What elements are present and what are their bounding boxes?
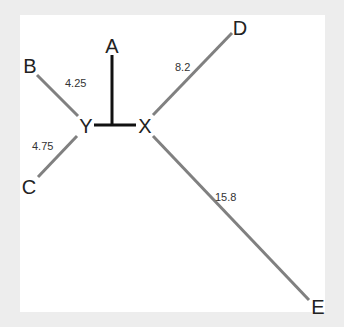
- node-label-c: C: [22, 176, 36, 198]
- node-label-b: B: [23, 55, 36, 77]
- phylogenetic-tree: A B C D E X Y 4.25 4.75 8.2 15.8: [0, 0, 344, 327]
- node-label-d: D: [233, 17, 247, 39]
- node-label-a: A: [105, 35, 119, 57]
- edge-length-d: 8.2: [175, 61, 190, 73]
- edge-length-e: 15.8: [215, 191, 236, 203]
- node-label-x: X: [138, 115, 151, 137]
- node-label-e: E: [311, 296, 324, 318]
- edge-length-b: 4.25: [65, 77, 86, 89]
- edge-x-d: [153, 33, 232, 115]
- node-label-y: Y: [79, 115, 92, 137]
- edge-x-e: [153, 136, 309, 300]
- edge-length-c: 4.75: [32, 140, 53, 152]
